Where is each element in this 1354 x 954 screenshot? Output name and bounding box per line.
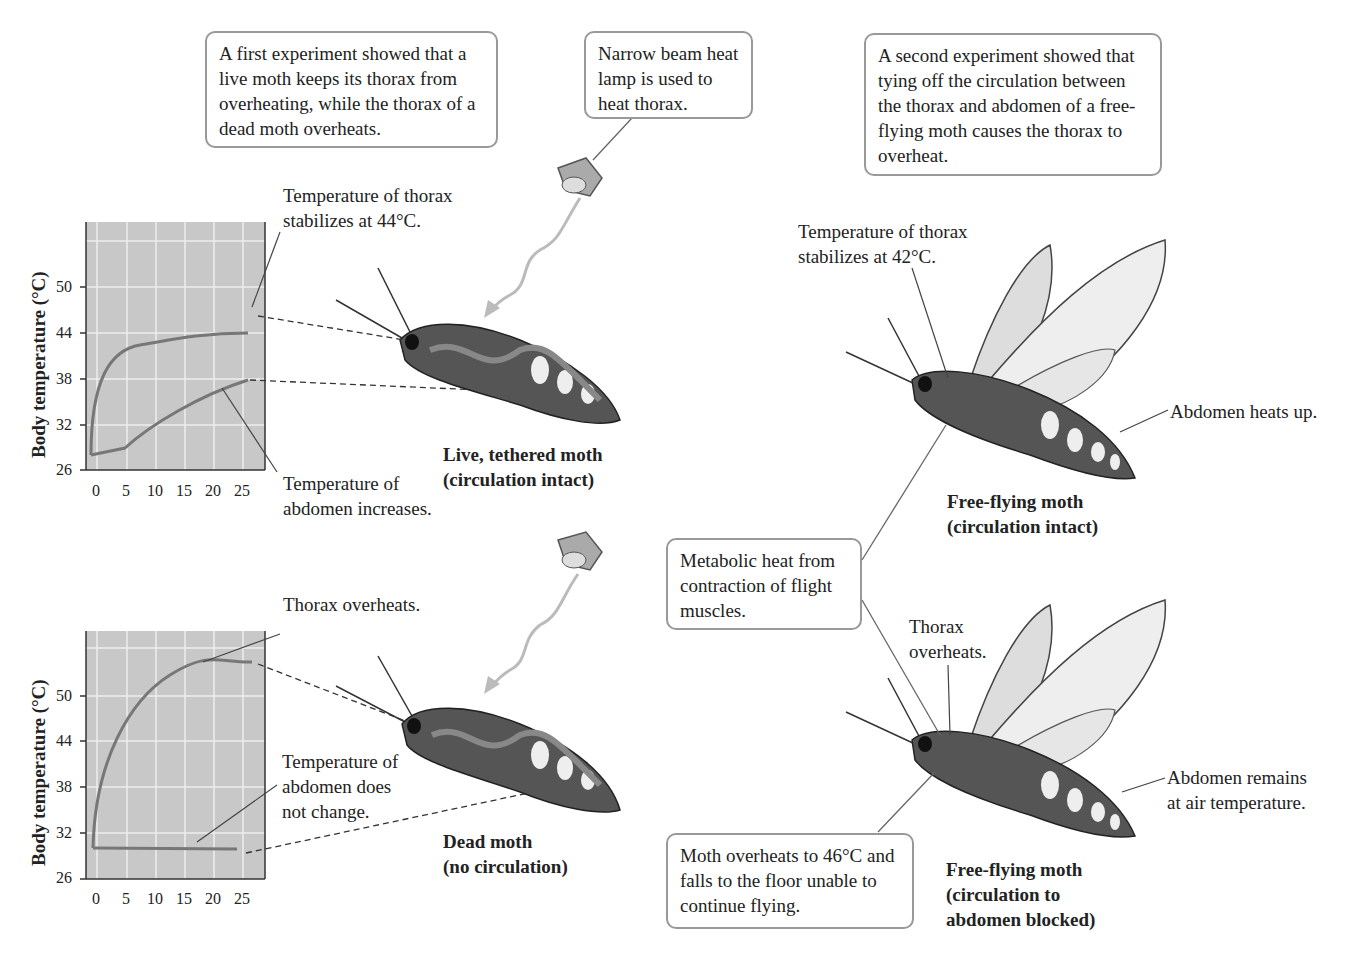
moth-tethered-illustration [336,268,620,423]
label-line: stabilizes at 42°C. [798,244,968,269]
label-thorax-overheats-2: Thorax overheats. [909,614,987,664]
caption-line: Free-flying moth [946,857,1095,882]
caption-line: Free-flying moth [947,489,1098,514]
caption-live-moth: Live, tethered moth (circulation intact) [443,442,603,492]
callout-first-experiment: A first experiment showed that a live mo… [205,31,498,148]
label-line: Temperature of thorax [283,183,453,208]
caption-line: (circulation to [946,882,1095,907]
callout-moth-overheats: Moth overheats to 46°C and falls to the … [666,833,914,929]
callout-second-experiment: A second experiment showed that tying of… [864,33,1162,176]
label-thorax-42: Temperature of thorax stabilizes at 42°C… [798,219,968,269]
label-line: abdomen does [282,774,398,799]
caption-line: (no circulation) [443,854,568,879]
heat-lamp-icon-1 [558,158,602,196]
label-line: stabilizes at 44°C. [283,208,453,233]
callout-heat-lamp: Narrow beam heat lamp is used to heat th… [584,31,753,119]
label-abdomen-heats: Abdomen heats up. [1170,399,1317,424]
label-line: overheats. [909,639,987,664]
label-line: Temperature of [282,749,398,774]
label-line: Temperature of thorax [798,219,968,244]
caption-line: abdomen blocked) [946,907,1095,932]
caption-circulation-blocked: Free-flying moth (circulation to abdomen… [946,857,1095,932]
caption-line: Dead moth [443,829,568,854]
label-line: not change. [282,799,398,824]
caption-free-flying: Free-flying moth (circulation intact) [947,489,1098,539]
label-line: abdomen increases. [283,496,432,521]
caption-line: Live, tethered moth [443,442,603,467]
moth-circulation-blocked-illustration [846,600,1165,837]
label-abdomen-remains: Abdomen remains at air temperature. [1167,765,1307,815]
label-abdomen-no-change: Temperature of abdomen does not change. [282,749,398,824]
label-line: Thorax [909,614,987,639]
label-thorax-44: Temperature of thorax stabilizes at 44°C… [283,183,453,233]
label-thorax-overheats: Thorax overheats. [283,592,420,617]
heat-lamp-icon-2 [558,532,602,570]
label-line: Abdomen remains [1167,765,1307,790]
label-line: Temperature of [283,471,432,496]
callout-metabolic-heat: Metabolic heat from contraction of fligh… [666,538,862,630]
caption-dead-moth: Dead moth (no circulation) [443,829,568,879]
caption-line: (circulation intact) [443,467,603,492]
caption-line: (circulation intact) [947,514,1098,539]
label-line: at air temperature. [1167,790,1307,815]
label-abdomen-increases: Temperature of abdomen increases. [283,471,432,521]
moth-free-flying-illustration [846,240,1165,479]
